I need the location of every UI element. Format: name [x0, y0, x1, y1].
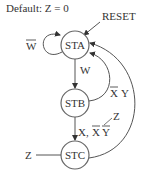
- stc-output-label: Z: [25, 149, 32, 161]
- reset-arrow: [84, 22, 100, 35]
- state-stc-label: STC: [65, 149, 85, 161]
- stb-to-stc-x: X,: [78, 126, 89, 138]
- sta-to-stb-label: W: [80, 64, 91, 76]
- state-stb-label: STB: [65, 97, 85, 109]
- z-pointer-line: [104, 118, 112, 125]
- stb-stc-output: Z: [113, 110, 120, 122]
- sta-self-loop: [43, 34, 62, 54]
- reset-label: RESET: [102, 10, 136, 22]
- stb-to-sta-y: Y: [121, 87, 129, 99]
- stc-to-sta-arrow: [89, 43, 135, 158]
- default-note: Default: Z = 0: [6, 2, 69, 14]
- stb-to-sta-arrow: [89, 53, 110, 101]
- state-sta-label: STA: [65, 39, 85, 51]
- stb-to-stc-xbar: X: [92, 126, 100, 138]
- sta-self-label: W: [26, 40, 37, 52]
- stb-to-stc-ybar: Y: [102, 126, 110, 138]
- stb-to-sta-x: X: [110, 87, 118, 99]
- state-diagram: Default: Z = 0 RESET STA W W STB X Y X, …: [0, 0, 152, 179]
